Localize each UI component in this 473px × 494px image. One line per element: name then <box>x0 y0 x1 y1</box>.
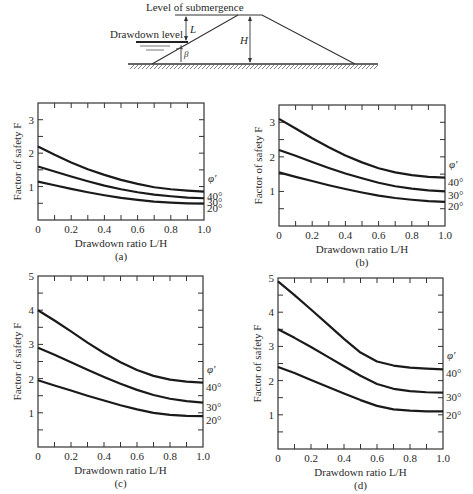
y-tick-label: 1 <box>269 409 275 421</box>
y-tick-label: 5 <box>269 272 275 284</box>
x-tick-label: 0 <box>276 229 282 241</box>
y-tick-label: 2 <box>29 373 35 385</box>
x-tick-label: 0.2 <box>64 450 78 462</box>
y-axis-label: Factor of safety F <box>252 127 264 205</box>
x-tick-label: 0.4 <box>98 223 112 235</box>
y-tick-label: 2 <box>270 151 276 163</box>
arrowhead <box>248 16 252 21</box>
legend-title-phi: φ′ <box>449 158 458 170</box>
series-label: 20° <box>206 414 221 426</box>
y-tick-label: 3 <box>269 340 275 352</box>
x-tick-label: 1.0 <box>197 223 211 235</box>
curve-30deg <box>38 348 203 403</box>
y-tick-label: 1 <box>270 185 276 197</box>
chart-panel-b: 00.20.40.60.81.0123Drawdown ratio L/HFac… <box>252 105 463 269</box>
x-tick-label: 0.8 <box>405 229 419 241</box>
series-label: 30° <box>446 391 461 403</box>
y-tick-label: 3 <box>270 116 276 128</box>
x-tick-label: 0 <box>35 223 41 235</box>
H-label: H <box>239 34 249 46</box>
series-label: 20° <box>448 200 463 212</box>
curve-20deg <box>278 367 443 411</box>
curve-40deg <box>278 281 443 369</box>
series-label: 20° <box>446 409 461 421</box>
plot-frame <box>279 105 445 226</box>
x-tick-label: 0.2 <box>304 452 318 464</box>
series-label: 40° <box>446 367 461 379</box>
x-axis-label: Drawdown ratio L/H <box>74 464 166 476</box>
curve-40deg <box>38 146 204 191</box>
curve-40deg <box>279 119 445 178</box>
x-axis-label: Drawdown ratio L/H <box>314 466 406 478</box>
y-tick-label: 2 <box>29 147 35 159</box>
x-tick-label: 0.2 <box>305 229 319 241</box>
L-label: L <box>189 23 196 35</box>
chart-panel-d: 00.20.40.60.81.012345Drawdown ratio L/HF… <box>251 272 461 492</box>
y-axis-label: Factor of safety F <box>251 325 263 403</box>
curve-30deg <box>38 167 204 199</box>
y-tick-label: 5 <box>29 270 35 282</box>
panel-label: (d) <box>354 479 367 492</box>
curve-30deg <box>278 329 443 392</box>
drawdown-label: Drawdown level <box>110 28 183 40</box>
x-axis-label: Drawdown ratio L/H <box>316 243 408 255</box>
x-tick-label: 0.2 <box>64 223 78 235</box>
x-tick-label: 0.8 <box>164 223 178 235</box>
x-tick-label: 0.6 <box>372 229 386 241</box>
arrowhead <box>184 36 188 41</box>
panel-label: (c) <box>114 477 127 490</box>
submergence-label: Level of submergence <box>146 1 244 13</box>
x-tick-label: 0.4 <box>339 229 353 241</box>
legend-title-phi: φ′ <box>208 172 217 184</box>
legend-title-phi: φ′ <box>207 363 216 375</box>
curve-40deg <box>38 310 203 383</box>
x-tick-label: 0.4 <box>337 452 351 464</box>
y-tick-label: 3 <box>29 338 35 350</box>
x-tick-label: 1.0 <box>438 229 452 241</box>
x-tick-label: 0 <box>275 452 281 464</box>
series-label: 40° <box>206 381 221 393</box>
x-tick-label: 1.0 <box>436 452 450 464</box>
chart-panel-a: 00.20.40.60.81.0123Drawdown ratio L/HFac… <box>11 103 222 263</box>
series-label: 20° <box>207 202 222 214</box>
y-tick-label: 4 <box>269 306 275 318</box>
arrowhead <box>184 16 188 21</box>
ground-hatching <box>130 65 378 69</box>
x-tick-label: 0.6 <box>131 223 145 235</box>
y-tick-label: 1 <box>29 407 35 419</box>
y-tick-label: 3 <box>29 114 35 126</box>
y-tick-label: 4 <box>29 304 35 316</box>
y-tick-label: 1 <box>29 181 35 193</box>
curve-30deg <box>279 150 445 191</box>
y-axis-label: Factor of safety F <box>11 123 23 201</box>
x-tick-label: 1.0 <box>196 450 210 462</box>
x-tick-label: 0 <box>35 450 41 462</box>
chart-panel-c: 00.20.40.60.81.012345Drawdown ratio L/HF… <box>11 270 221 490</box>
x-tick-label: 0.8 <box>163 450 177 462</box>
curve-20deg <box>38 380 203 416</box>
panel-label: (a) <box>115 250 128 263</box>
curve-20deg <box>38 182 204 204</box>
legend-title-phi: φ′ <box>447 349 456 361</box>
x-tick-label: 0.6 <box>130 450 144 462</box>
panel-label: (b) <box>356 256 369 269</box>
x-tick-label: 0.6 <box>370 452 384 464</box>
figure-canvas: Level of submergence Drawdown level L H … <box>0 0 473 494</box>
series-label: 30° <box>206 401 221 413</box>
x-tick-label: 0.4 <box>97 450 111 462</box>
series-label: 40° <box>448 176 463 188</box>
y-tick-label: 2 <box>269 375 275 387</box>
y-axis-label: Factor of safety F <box>11 323 23 401</box>
x-tick-label: 0.8 <box>403 452 417 464</box>
arrowhead <box>248 58 252 63</box>
embankment-diagram: Level of submergence Drawdown level L H … <box>110 1 378 69</box>
x-axis-label: Drawdown ratio L/H <box>75 237 167 249</box>
beta-label: β <box>183 49 189 59</box>
